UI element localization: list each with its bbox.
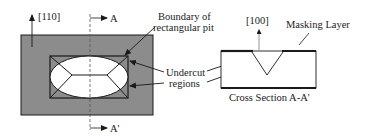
undercut-label-line1: Undercut [166,67,205,78]
boundary-label-line2: rectangular pit [153,22,214,33]
section-a-prime-label: A' [110,123,120,134]
boundary-label-line1: Boundary of [158,11,211,22]
cross-section-caption: Cross Section A-A' [229,92,310,103]
direction-100-label: [100] [246,15,269,26]
masking-layer-label: Masking Layer [286,19,350,30]
undercut-label-line2: regions [169,78,200,89]
mask-opening-ellipse [50,56,128,98]
masking-layer-leader [299,33,309,45]
direction-110-label: [110] [38,11,60,22]
diagram: A A' [110] Boundary of rectangular pit U… [0,0,367,137]
cross-section-view: [100] Masking Layer Cross Section A-A' [221,15,350,103]
section-a-label: A [110,13,118,24]
substrate-cross-section [221,51,316,88]
